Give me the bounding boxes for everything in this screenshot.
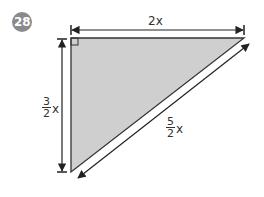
right-triangle (71, 38, 244, 172)
problem-number: 28 (14, 16, 30, 28)
triangle-diagram (0, 0, 264, 197)
left-denominator: 2 (43, 108, 50, 119)
top-side-label: 2x (148, 15, 163, 27)
hypotenuse-label: 5 2 x (166, 116, 183, 139)
left-variable: x (52, 102, 59, 116)
left-side-label: 3 2 x (42, 96, 59, 119)
hypotenuse-denominator: 2 (167, 128, 174, 139)
hypotenuse-variable: x (176, 122, 183, 136)
